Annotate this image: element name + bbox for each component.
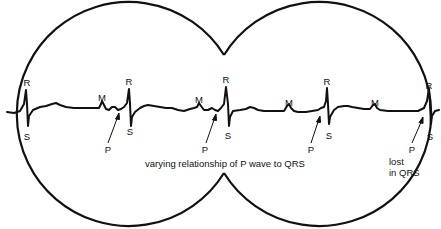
s-label-5: S	[427, 131, 433, 142]
m-label-2: M	[195, 94, 203, 105]
m-labels: M M M M	[98, 92, 379, 108]
caption: varying relationship of P wave to QRS	[145, 158, 305, 169]
r-label-4: R	[324, 76, 331, 87]
p-label-3: P	[308, 144, 314, 155]
m-label-3: M	[285, 97, 293, 108]
p-arrow-4	[412, 120, 422, 143]
left-circle-outline	[17, 2, 224, 226]
s-label-1: S	[24, 131, 30, 142]
s-label-3: S	[225, 130, 231, 141]
p-label-1: P	[105, 144, 111, 155]
p-wave-arrows	[108, 113, 423, 143]
r-label-1: R	[24, 77, 31, 88]
p-arrow-2	[206, 117, 215, 143]
arrowhead-icon	[116, 113, 120, 120]
s-labels: S S S S S	[24, 126, 433, 142]
diagram-canvas: R R R R R S S S S S M M M M P P P P	[0, 0, 441, 229]
circle-frame	[17, 2, 431, 226]
s-label-2: S	[127, 126, 133, 137]
r-label-3: R	[223, 74, 230, 85]
note-lost: lost	[389, 156, 404, 167]
p-arrow-1	[108, 116, 118, 143]
r-label-5: R	[426, 80, 433, 91]
r-labels: R R R R R	[24, 74, 433, 91]
arrowhead-icon	[317, 116, 321, 123]
r-label-2: R	[126, 76, 133, 87]
arrowhead-icon	[419, 117, 423, 124]
s-label-4: S	[326, 130, 332, 141]
p-labels: P P P P	[105, 144, 415, 155]
p-label-2: P	[202, 144, 208, 155]
m-label-4: M	[371, 97, 379, 108]
note-in-qrs: in QRS	[389, 167, 420, 178]
p-label-4: P	[409, 144, 415, 155]
ecg-diagram: R R R R R S S S S S M M M M P P P P	[0, 0, 441, 229]
arrowhead-icon	[213, 114, 217, 121]
m-label-1: M	[98, 92, 106, 103]
